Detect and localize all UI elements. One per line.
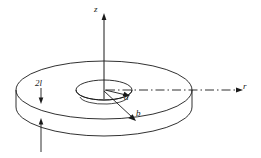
z-axis-label: z [94, 5, 98, 14]
inner-radius-label: a [124, 93, 129, 102]
figure-container: z r a b 2l [0, 0, 261, 158]
z-axis-arrowhead [102, 13, 107, 20]
thickness-label: 2l [35, 79, 42, 88]
r-axis-arrowhead [236, 88, 243, 93]
outer-radius-label: b [136, 109, 141, 118]
r-axis-label: r [243, 82, 247, 91]
